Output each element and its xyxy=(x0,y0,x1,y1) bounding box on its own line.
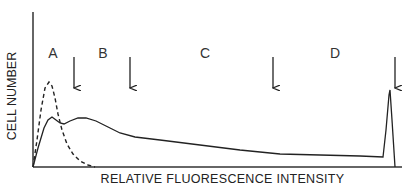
region-label-d: D xyxy=(330,45,340,61)
region-label-c: C xyxy=(200,45,210,61)
sample-curve-solid xyxy=(33,90,395,167)
histogram-chart xyxy=(0,0,409,190)
gate-arrows xyxy=(74,57,395,88)
y-axis-label: CELL NUMBER xyxy=(5,52,19,140)
x-axis-label: RELATIVE FLUORESCENCE INTENSITY xyxy=(0,172,409,186)
region-label-a: A xyxy=(48,45,57,61)
region-label-b: B xyxy=(98,45,107,61)
